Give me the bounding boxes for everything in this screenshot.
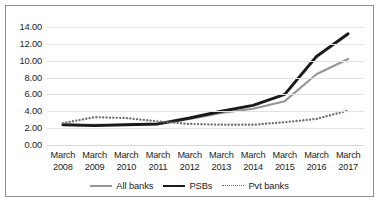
x-axis-tick-label-line: 2014	[237, 162, 269, 174]
x-axis-tick-label: March2016	[301, 150, 333, 176]
x-axis-tick-label-line: March	[47, 150, 79, 162]
y-axis-labels: 14.0012.0010.008.006.004.002.000.00	[8, 27, 42, 145]
x-axis-tick-label-line: March	[142, 150, 174, 162]
x-axis-tick-label-line: March	[206, 150, 238, 162]
x-axis-tick-label-line: March	[174, 150, 206, 162]
gridline	[47, 78, 364, 79]
x-axis-tick-label-line: March	[269, 150, 301, 162]
y-axis-tick-label: 10.00	[19, 56, 42, 66]
series-line-pvt-banks	[63, 110, 348, 124]
y-axis-tick-label: 2.00	[25, 123, 43, 133]
legend-item-psbs[interactable]: PSBs	[163, 180, 212, 191]
gridline	[47, 111, 364, 112]
x-axis-tick-label-line: 2009	[79, 162, 111, 174]
y-axis-tick-label: 4.00	[25, 106, 43, 116]
x-axis-tick-label-line: 2010	[110, 162, 142, 174]
x-axis-tick-label-line: March	[79, 150, 111, 162]
legend-swatch-icon	[222, 185, 244, 186]
legend-swatch-icon	[163, 185, 185, 187]
x-axis-tick-label: March2008	[47, 150, 79, 176]
x-axis-tick-label-line: March	[301, 150, 333, 162]
x-axis-tick-label-line: 2013	[206, 162, 238, 174]
x-axis-tick-label: March2014	[237, 150, 269, 176]
chart-legend: All banksPSBsPvt banks	[0, 180, 379, 191]
y-axis-tick-label: 12.00	[19, 39, 42, 49]
plot-area	[47, 27, 364, 145]
x-axis-tick-label-line: 2011	[142, 162, 174, 174]
x-axis-tick-label: March2017	[332, 150, 364, 176]
x-axis-line	[47, 145, 364, 146]
gridline	[47, 44, 364, 45]
legend-label: PSBs	[189, 180, 212, 191]
gridline	[47, 94, 364, 95]
x-axis-tick-label-line: 2017	[332, 162, 364, 174]
x-axis-tick-label-line: March	[237, 150, 269, 162]
x-axis-tick-label: March2009	[79, 150, 111, 176]
legend-label: Pvt banks	[248, 180, 288, 191]
x-axis-tick-label: March2015	[269, 150, 301, 176]
x-axis-tick-label-line: 2008	[47, 162, 79, 174]
x-axis-tick-label-line: 2016	[301, 162, 333, 174]
chart-figure: 14.0012.0010.008.006.004.002.000.00 Marc…	[0, 0, 379, 208]
y-axis-tick-label: 8.00	[25, 73, 43, 83]
legend-swatch-icon	[90, 185, 112, 187]
x-axis-tick-label-line: March	[332, 150, 364, 162]
x-axis-tick-label: March2011	[142, 150, 174, 176]
gridline	[47, 61, 364, 62]
x-axis-tick-label: March2013	[206, 150, 238, 176]
legend-item-pvt-banks[interactable]: Pvt banks	[222, 180, 288, 191]
x-axis-tick-label-line: March	[110, 150, 142, 162]
y-axis-tick-label: 6.00	[25, 89, 43, 99]
x-axis-tick-label-line: 2015	[269, 162, 301, 174]
x-axis-tick-label: March2010	[110, 150, 142, 176]
legend-item-all-banks[interactable]: All banks	[90, 180, 153, 191]
x-axis-labels: March2008March2009March2010March2011Marc…	[47, 150, 364, 176]
y-axis-tick-label: 14.00	[19, 22, 42, 32]
gridline	[47, 128, 364, 129]
y-axis-tick-label: 0.00	[25, 140, 43, 150]
gridline	[47, 27, 364, 28]
legend-label: All banks	[116, 180, 153, 191]
x-axis-tick-label: March2012	[174, 150, 206, 176]
x-axis-tick-label-line: 2012	[174, 162, 206, 174]
